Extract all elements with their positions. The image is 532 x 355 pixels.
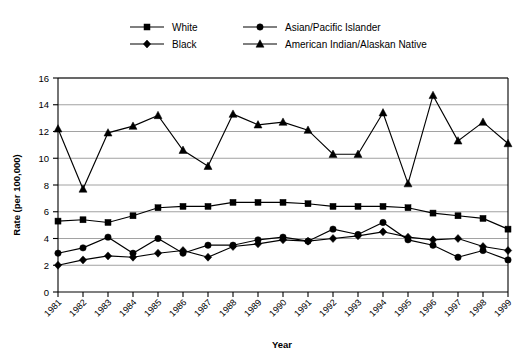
y-axis-ticks: 0246810121416 <box>38 73 58 298</box>
triangle-marker <box>429 91 437 98</box>
x-tick-label: 1983 <box>92 297 113 318</box>
y-axis-title: Rate (per 100,000) <box>11 154 22 235</box>
circle-marker <box>355 231 361 237</box>
diamond-marker <box>104 252 111 260</box>
diamond-marker <box>54 261 61 269</box>
x-axis-title: Year <box>272 339 292 350</box>
circle-marker <box>155 235 161 241</box>
diamond-marker <box>379 228 386 236</box>
circle-marker <box>380 219 386 225</box>
triangle-marker <box>54 125 62 132</box>
square-marker <box>330 203 336 209</box>
x-tick-label: 1996 <box>417 297 438 318</box>
chart-container: WhiteAsian/Pacific IslanderBlackAmerican… <box>0 0 532 355</box>
diamond-marker <box>454 235 461 243</box>
triangle-marker <box>204 162 212 169</box>
x-tick-label: 1993 <box>342 297 363 318</box>
triangle-marker <box>379 109 387 116</box>
x-tick-label: 1981 <box>42 297 63 318</box>
circle-marker <box>280 234 286 240</box>
y-tick-label: 2 <box>44 260 49 271</box>
square-marker <box>305 201 311 207</box>
data-series <box>54 91 512 269</box>
diamond-marker <box>204 253 211 261</box>
x-tick-label: 1989 <box>242 297 263 318</box>
series-polyline <box>58 202 508 229</box>
circle-marker <box>257 24 263 30</box>
circle-marker <box>230 242 236 248</box>
legend-entry-asian-pacific-islander: Asian/Pacific Islander <box>243 22 381 33</box>
legend-label: American Indian/Alaskan Native <box>285 39 427 50</box>
square-marker <box>144 24 150 30</box>
x-tick-label: 1995 <box>392 297 413 318</box>
square-marker <box>405 205 411 211</box>
legend-entry-american-indian-alaskan-native: American Indian/Alaskan Native <box>243 39 427 50</box>
circle-marker <box>55 250 61 256</box>
diamond-marker <box>143 40 150 48</box>
circle-marker <box>305 238 311 244</box>
circle-marker <box>130 250 136 256</box>
triangle-marker <box>454 137 462 144</box>
x-tick-label: 1988 <box>217 297 238 318</box>
square-marker <box>180 203 186 209</box>
triangle-marker <box>279 118 287 125</box>
square-marker <box>480 215 486 221</box>
y-tick-label: 12 <box>38 126 49 137</box>
triangle-marker <box>79 185 87 192</box>
y-tick-label: 8 <box>44 180 49 191</box>
series-polyline <box>58 95 508 189</box>
circle-marker <box>430 242 436 248</box>
x-tick-label: 1987 <box>192 297 213 318</box>
square-marker <box>255 199 261 205</box>
square-marker <box>205 203 211 209</box>
square-marker <box>155 205 161 211</box>
square-marker <box>455 213 461 219</box>
circle-marker <box>455 254 461 260</box>
legend-label: Asian/Pacific Islander <box>285 22 381 33</box>
x-tick-label: 1991 <box>292 297 313 318</box>
circle-marker <box>205 242 211 248</box>
x-tick-label: 1990 <box>267 297 288 318</box>
square-marker <box>355 203 361 209</box>
diamond-marker <box>329 235 336 243</box>
circle-marker <box>505 257 511 263</box>
y-tick-label: 16 <box>38 73 49 84</box>
diamond-marker <box>504 247 511 255</box>
x-tick-label: 1992 <box>317 297 338 318</box>
square-marker <box>80 217 86 223</box>
legend-label: White <box>172 22 198 33</box>
legend-label: Black <box>172 39 197 50</box>
x-tick-label: 1999 <box>492 297 513 318</box>
square-marker <box>505 226 511 232</box>
legend-entry-black: Black <box>130 39 197 50</box>
x-axis-ticks: 1981198219831984198519861987198819891990… <box>42 292 513 319</box>
x-tick-label: 1986 <box>167 297 188 318</box>
series-american-indian-alaskan-native <box>54 91 512 192</box>
x-tick-label: 1984 <box>117 297 138 318</box>
square-marker <box>430 210 436 216</box>
square-marker <box>280 199 286 205</box>
triangle-marker <box>404 179 412 186</box>
circle-marker <box>180 250 186 256</box>
square-marker <box>55 218 61 224</box>
square-marker <box>130 213 136 219</box>
circle-marker <box>405 237 411 243</box>
square-marker <box>105 219 111 225</box>
triangle-marker <box>154 111 162 118</box>
triangle-marker <box>229 110 237 117</box>
diamond-marker <box>154 249 161 257</box>
y-tick-label: 6 <box>44 206 49 217</box>
y-tick-label: 14 <box>38 99 49 110</box>
x-tick-label: 1998 <box>467 297 488 318</box>
rate-by-race-line-chart: WhiteAsian/Pacific IslanderBlackAmerican… <box>0 0 532 355</box>
x-tick-label: 1982 <box>67 297 88 318</box>
square-marker <box>380 203 386 209</box>
x-tick-label: 1997 <box>442 297 463 318</box>
diamond-marker <box>79 256 86 264</box>
chart-legend: WhiteAsian/Pacific IslanderBlackAmerican… <box>130 22 427 50</box>
circle-marker <box>80 245 86 251</box>
legend-entry-white: White <box>130 22 198 33</box>
circle-marker <box>255 237 261 243</box>
x-tick-label: 1994 <box>367 297 388 318</box>
square-marker <box>230 199 236 205</box>
